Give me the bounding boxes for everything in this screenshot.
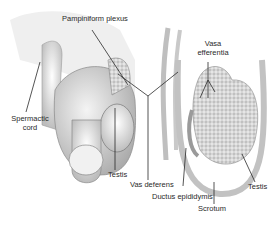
label-vasa-efferentia-line1: Vasa [199,40,227,48]
label-vasa-efferentia-line2: efferentia [194,49,232,57]
label-scrotum: Scrotum [198,205,226,213]
label-spermatic-cord-line2: cord [10,124,50,132]
label-vas-deferens: Vas deferens [130,181,174,189]
external-view [10,11,136,182]
label-testis-right: Testis [248,183,267,191]
anatomy-illustration [0,0,276,226]
label-spermatic-cord-line1: Spermactic [10,115,50,123]
label-testis-left: Testis [108,171,127,179]
label-pampiniform-plexus: Pampiniform plexus [62,15,128,23]
label-ductus-epididymis: Ductus epididymis [152,193,213,201]
